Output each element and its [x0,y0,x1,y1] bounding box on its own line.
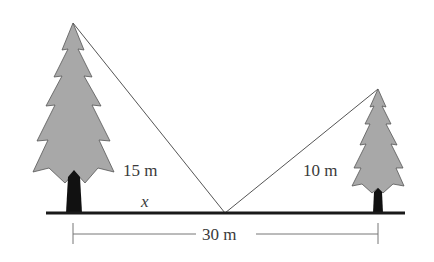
right-tree-foliage [352,89,404,193]
left-height-label: 15 m [123,161,157,180]
unknown-x-label: x [140,192,149,211]
right-rope-line [225,89,378,213]
right-height-label: 10 m [303,161,337,180]
total-distance-label: 30 m [202,225,236,244]
right-tree-trunk [373,188,383,213]
right-tree [352,89,404,213]
diagram-canvas: 15 m 10 m x 30 m [0,0,434,262]
left-tree-foliage [33,23,114,183]
left-tree [33,23,114,213]
